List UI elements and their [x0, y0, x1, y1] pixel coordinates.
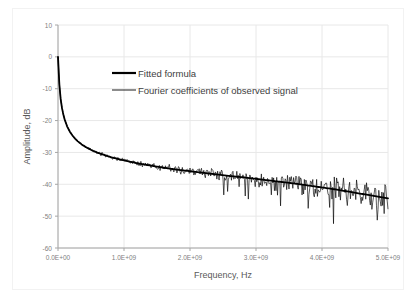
x-axis-tick-label: 2.0E+09 [178, 254, 203, 261]
y-axis-tick-label: -30 [43, 149, 53, 156]
chart-plot-area: 100-10-20-30-40-50-600.0E+001.0E+092.0E+… [0, 0, 416, 307]
y-axis-title: Amplitude, dB [22, 108, 32, 164]
x-axis-tick-label: 1.0E+09 [112, 254, 137, 261]
x-axis-title: Frequency, Hz [194, 270, 252, 280]
y-axis-tick-label: 10 [45, 22, 53, 29]
x-axis-tick-label: 3.0E+09 [244, 254, 269, 261]
y-axis-tick-label: -60 [43, 245, 53, 252]
y-axis-tick-label: -50 [43, 213, 53, 220]
x-axis-tick-label: 4.0E+09 [310, 254, 335, 261]
legend-label-fitted-formula: Fitted formula [138, 68, 197, 79]
y-axis-tick-label: 0 [48, 53, 52, 60]
x-axis-tick-label: 5.0E+09 [376, 254, 401, 261]
chart-container: 100-10-20-30-40-50-600.0E+001.0E+092.0E+… [0, 0, 416, 307]
x-axis-tick-label: 0.0E+00 [46, 254, 71, 261]
series-observed-fourier-coefficients [58, 57, 388, 224]
y-axis-tick-label: -10 [43, 85, 53, 92]
y-axis-tick-label: -20 [43, 117, 53, 124]
y-axis-tick-label: -40 [43, 181, 53, 188]
legend-label-observed-fourier-coefficients: Fourier coefficients of observed signal [138, 85, 298, 96]
